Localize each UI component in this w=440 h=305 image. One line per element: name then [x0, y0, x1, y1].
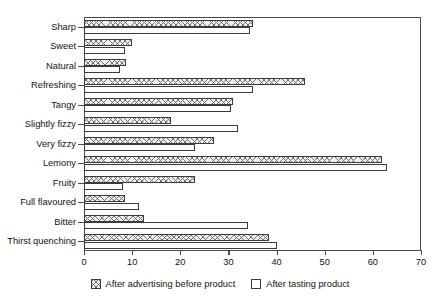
category-label-tangy: Tangy: [0, 100, 76, 110]
bar-sharp-series1: [84, 20, 253, 27]
x-tick: [277, 250, 278, 255]
category-label-lemony: Lemony: [0, 158, 76, 168]
bar-natural-series1: [84, 59, 126, 66]
bar-lemony-series2: [84, 164, 387, 171]
bar-chart: SharpSweetNaturalRefreshingTangySlightly…: [0, 0, 440, 305]
x-tick: [373, 250, 374, 255]
category-label-sweet: Sweet: [0, 41, 76, 51]
x-tick: [132, 250, 133, 255]
x-tick: [421, 250, 422, 255]
bar-natural-series2: [84, 66, 120, 73]
bar-thirst-quenching-series2: [84, 242, 277, 249]
x-tick: [228, 250, 229, 255]
x-tick-label: 70: [406, 257, 436, 267]
x-tick-label: 60: [358, 257, 388, 267]
category-label-very-fizzy: Very fizzy: [0, 139, 76, 149]
bar-lemony-series1: [84, 156, 382, 163]
bar-full-flavoured-series1: [84, 195, 125, 202]
bar-bitter-series2: [84, 222, 248, 229]
bar-sweet-series1: [84, 39, 132, 46]
bar-tangy-series2: [84, 105, 231, 112]
x-tick: [180, 250, 181, 255]
bar-bitter-series1: [84, 215, 144, 222]
x-tick-label: 30: [213, 257, 243, 267]
bar-sharp-series2: [84, 27, 250, 34]
bar-refreshing-series2: [84, 86, 253, 93]
category-label-slightly-fizzy: Slightly fizzy: [0, 119, 76, 129]
x-tick: [325, 250, 326, 255]
category-label-refreshing: Refreshing: [0, 80, 76, 90]
bar-sweet-series2: [84, 47, 125, 54]
bar-very-fizzy-series2: [84, 144, 195, 151]
category-label-natural: Natural: [0, 61, 76, 71]
category-label-sharp: Sharp: [0, 22, 76, 32]
legend-swatch-plain-icon: [251, 279, 261, 289]
legend-entry-after-tasting: After tasting product: [251, 279, 349, 289]
x-tick-label: 10: [117, 257, 147, 267]
category-axis: SharpSweetNaturalRefreshingTangySlightly…: [0, 17, 76, 251]
legend-label: After tasting product: [266, 279, 349, 289]
x-axis-line: [84, 250, 421, 251]
legend-entry-after-advertising: After advertising before product: [91, 279, 236, 289]
bar-tangy-series1: [84, 98, 233, 105]
bar-full-flavoured-series2: [84, 203, 139, 210]
x-tick-label: 0: [69, 257, 99, 267]
x-tick-label: 40: [262, 257, 292, 267]
bar-refreshing-series1: [84, 78, 305, 85]
chart-legend: After advertising before product After t…: [0, 279, 440, 289]
category-label-full-flavoured: Full flavoured: [0, 197, 76, 207]
category-label-fruity: Fruity: [0, 178, 76, 188]
category-label-bitter: Bitter: [0, 217, 76, 227]
legend-swatch-hatch-icon: [91, 279, 101, 289]
bar-slightly-fizzy-series1: [84, 117, 171, 124]
legend-label: After advertising before product: [106, 279, 236, 289]
bar-slightly-fizzy-series2: [84, 125, 238, 132]
bar-series-group: [84, 17, 421, 251]
x-tick: [84, 250, 85, 255]
bar-fruity-series2: [84, 183, 123, 190]
x-tick-label: 20: [165, 257, 195, 267]
bar-fruity-series1: [84, 176, 195, 183]
category-label-thirst-quenching: Thirst quenching: [0, 236, 76, 246]
x-tick-label: 50: [310, 257, 340, 267]
bar-thirst-quenching-series1: [84, 234, 269, 241]
bar-very-fizzy-series1: [84, 137, 214, 144]
